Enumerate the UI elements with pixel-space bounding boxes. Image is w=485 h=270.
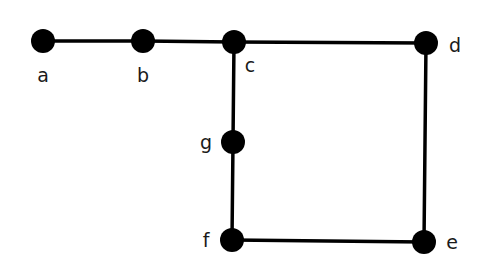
edge-b-c xyxy=(143,41,234,42)
node-label-d: d xyxy=(449,34,461,56)
labels-layer: abcdgfe xyxy=(37,34,461,253)
node-label-e: e xyxy=(446,231,458,253)
node-c xyxy=(222,30,246,54)
edge-f-e xyxy=(232,240,424,242)
node-label-f: f xyxy=(203,229,211,251)
node-label-g: g xyxy=(200,131,212,153)
graph-diagram: abcdgfe xyxy=(0,0,485,270)
edge-c-g xyxy=(233,42,234,142)
node-label-a: a xyxy=(37,64,49,86)
edge-c-d xyxy=(234,42,426,43)
node-label-b: b xyxy=(137,64,149,86)
node-g xyxy=(221,130,245,154)
node-b xyxy=(131,29,155,53)
node-d xyxy=(414,31,438,55)
node-a xyxy=(31,29,55,53)
node-f xyxy=(220,228,244,252)
node-e xyxy=(412,230,436,254)
node-label-c: c xyxy=(245,54,255,76)
edge-d-e xyxy=(424,43,426,242)
edge-g-f xyxy=(232,142,233,240)
